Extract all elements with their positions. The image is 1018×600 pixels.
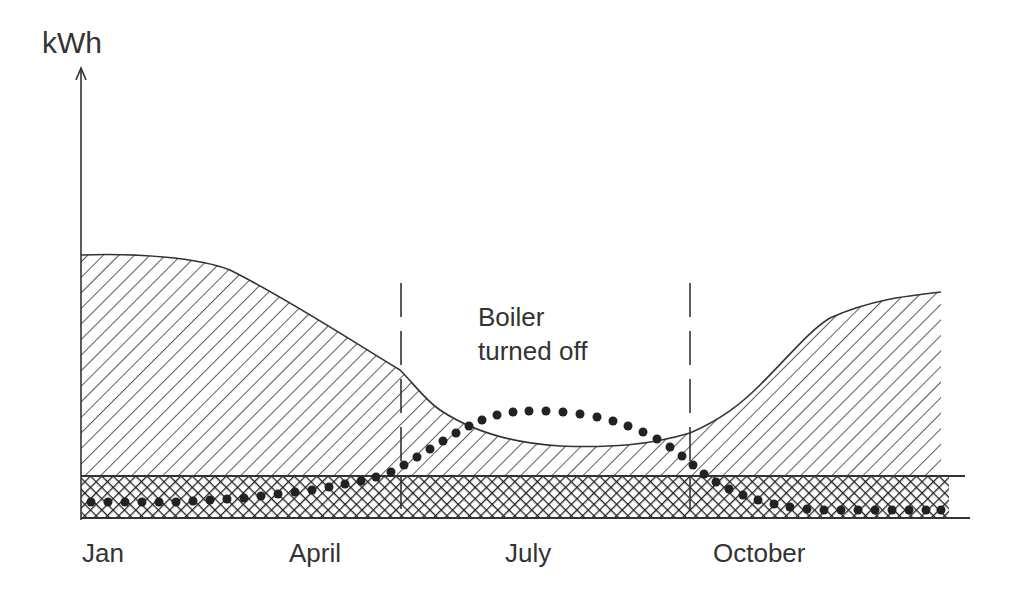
boiler-off-annotation: Boiler turned off bbox=[478, 300, 587, 368]
x-tick-july: July bbox=[505, 538, 551, 569]
annotation-line-2: turned off bbox=[478, 334, 587, 368]
annotation-line-1: Boiler bbox=[478, 300, 587, 334]
x-tick-april: April bbox=[289, 538, 341, 569]
x-tick-jan: Jan bbox=[82, 538, 124, 569]
x-tick-october: October bbox=[713, 538, 806, 569]
y-axis-label: kWh bbox=[42, 26, 102, 60]
hot-water-band bbox=[81, 476, 965, 518]
